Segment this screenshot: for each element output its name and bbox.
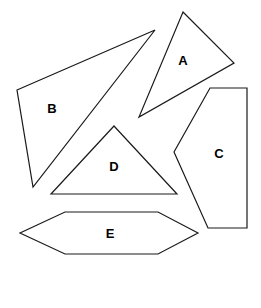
shape-label-d: D [109,159,118,174]
shape-group: ABCDE [17,12,247,254]
shape-label-e: E [106,226,115,241]
shapes-diagram: ABCDE [0,0,261,308]
shape-label-c: C [214,146,224,161]
figure-canvas: ABCDE [0,0,261,308]
shape-label-b: B [47,101,56,116]
shape-label-a: A [178,53,188,68]
polygon-c[interactable] [174,88,247,228]
